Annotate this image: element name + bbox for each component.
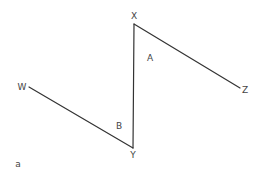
point-label-x: X: [131, 11, 137, 21]
point-label-y: Y: [129, 150, 136, 160]
segments: [29, 24, 240, 148]
angle-label-b: B: [116, 121, 122, 131]
figure-caption: a: [15, 159, 21, 169]
point-label-z: Z: [242, 85, 248, 95]
segment-y-x: [133, 24, 134, 148]
angle-label-a: A: [147, 53, 154, 63]
zigzag-diagram: X W Z Y A B a: [0, 0, 261, 175]
point-label-w: W: [18, 82, 27, 92]
segment-w-y: [29, 87, 133, 148]
